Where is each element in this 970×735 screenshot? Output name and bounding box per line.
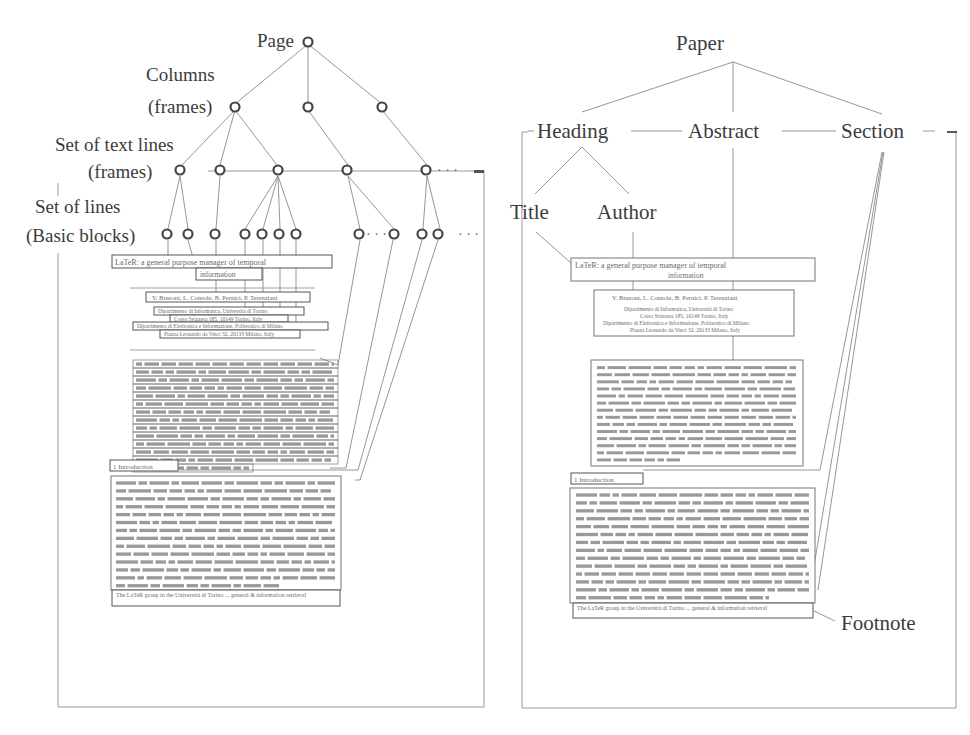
left-panel: Page Columns (frames) Set of text lines … [26, 30, 484, 707]
level-label-columns-sub: (frames) [148, 96, 212, 118]
left-author-text: V. Brusoni, L. Console, B. Pernici, P. T… [152, 294, 278, 301]
left-affil-text-1: Dipartimento di Informatica, Università … [158, 308, 267, 314]
node-column-2 [304, 103, 313, 112]
level-label-page: Page [257, 30, 294, 51]
node-block-10 [418, 230, 427, 239]
node-block-2 [184, 230, 193, 239]
right-section-heading: 1 Introduction [574, 476, 614, 484]
node-block-1 [163, 230, 172, 239]
node-textset-2 [216, 166, 225, 175]
right-body-box [570, 488, 815, 603]
right-affil-text-2: Corso Svizzera 185, 10149 Torino, Italy [640, 313, 729, 319]
left-document: LaTeR: a general purpose manager of temp… [110, 255, 341, 606]
left-footnote-text: The LaTeR group in the Università di Tor… [116, 592, 306, 598]
node-block-9 [390, 230, 399, 239]
left-affil-text-4: Piazza Leonardo da Vinci 32, 20133 Milan… [164, 331, 274, 337]
left-abstract-lines [133, 360, 338, 472]
node-page [304, 38, 313, 47]
level-label-lines: Set of lines [35, 196, 121, 217]
label-footnote: Footnote [841, 611, 916, 635]
node-block-7 [292, 230, 301, 239]
level-label-textlines-sub: (frames) [88, 161, 152, 183]
right-document: LaTeR: a general purpose manager of temp… [570, 258, 815, 618]
level-label-lines-sub: (Basic blocks) [26, 225, 135, 247]
document-layout-diagram: Page Columns (frames) Set of text lines … [0, 0, 970, 735]
node-title: Title [510, 200, 549, 224]
node-section: Section [841, 119, 904, 143]
ellipsis-textsets: · · · [437, 163, 458, 178]
right-panel: Paper Heading Abstract Section Title Aut… [510, 31, 957, 708]
node-block-3 [211, 230, 220, 239]
right-affil-text-1: Dipartimento di Informatica, Università … [624, 306, 733, 312]
left-title-text: LaTeR: a general purpose manager of temp… [115, 258, 267, 267]
left-affil-text-3: Dipartimento di Elettronica e Informazio… [137, 323, 283, 329]
right-affil-text-3: Dipartimento di Elettronica e Informazio… [603, 320, 749, 326]
node-block-8 [355, 230, 364, 239]
right-title-text: LaTeR: a general purpose manager of temp… [575, 261, 727, 270]
node-textset-4 [343, 166, 352, 175]
node-block-11 [434, 230, 443, 239]
node-block-6 [275, 230, 284, 239]
right-footnote-text: The LaTeR group in the Università di Tor… [577, 605, 767, 611]
right-author-text: V. Brusoni, L. Console, B. Pernici, P. T… [612, 294, 738, 301]
level-label-textlines: Set of text lines [55, 134, 174, 155]
node-heading: Heading [537, 119, 609, 143]
ellipsis-blocks-mid: · · · [366, 227, 387, 242]
node-author: Author [597, 200, 657, 224]
node-textset-5 [422, 166, 431, 175]
node-textset-1 [176, 166, 185, 175]
level-label-columns: Columns [146, 64, 215, 85]
left-frame-corner [474, 170, 484, 173]
node-block-5 [258, 230, 267, 239]
node-abstract: Abstract [688, 119, 759, 143]
left-title-text-2: information [200, 270, 236, 279]
node-column-1 [231, 103, 240, 112]
left-affil-text-2: Corso Svizzera 185, 10149 Torino, Italy [174, 316, 263, 322]
left-body-box [111, 476, 341, 590]
left-page-frame [58, 171, 484, 707]
node-column-3 [378, 103, 387, 112]
right-affil-text-4: Piazza Leonardo da Vinci 32, 20133 Milan… [630, 327, 740, 333]
node-block-4 [241, 230, 250, 239]
node-textset-3 [274, 166, 283, 175]
ellipsis-blocks-end: · · · [458, 227, 479, 242]
node-paper: Paper [676, 31, 724, 55]
right-title-text-2: information [668, 271, 704, 280]
left-section-heading: 1 Introduction [113, 463, 153, 471]
